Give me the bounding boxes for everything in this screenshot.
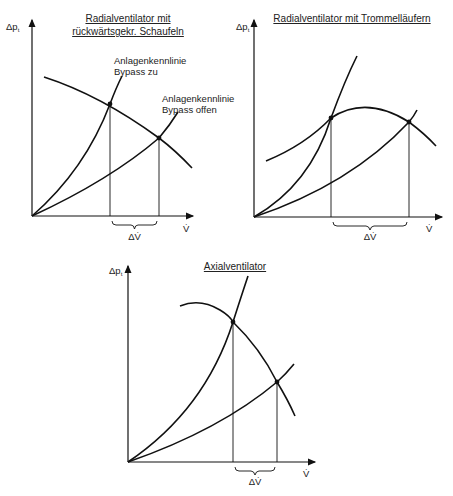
chart-axial: Δpt V̇ Axialventilator ΔV̇ bbox=[109, 261, 315, 487]
chart-title: Axialventilator bbox=[204, 261, 267, 272]
operating-point-closed bbox=[329, 116, 334, 121]
operating-point-open bbox=[157, 136, 162, 141]
delta-brace bbox=[235, 467, 275, 475]
operating-point-closed bbox=[108, 102, 113, 107]
x-axis-label: V̇ bbox=[303, 468, 310, 479]
operating-point-open bbox=[407, 120, 412, 125]
operating-point-open bbox=[275, 380, 280, 385]
delta-v-label: ΔV̇ bbox=[249, 476, 262, 487]
system-curve-bypass-closed bbox=[32, 76, 122, 216]
delta-v-label: ΔV̇ bbox=[128, 231, 141, 242]
delta-brace bbox=[333, 222, 407, 230]
delta-v-label: ΔV̇ bbox=[364, 231, 377, 242]
annotation-bypass-open-line2: Bypass offen bbox=[162, 104, 217, 115]
delta-brace bbox=[112, 221, 157, 229]
y-axis-label: Δpt bbox=[236, 21, 250, 33]
chart-title-line2: rückwärtsgekr. Schaufeln bbox=[72, 26, 184, 37]
chart-title: Radialventilator mit Trommelläufern bbox=[273, 13, 430, 24]
annotation-bypass-open-line1: Anlagenkennlinie bbox=[162, 93, 234, 104]
y-axis-label: Δpt bbox=[109, 265, 123, 277]
fan-curve bbox=[266, 107, 436, 161]
annotation-bypass-closed-line2: Bypass zu bbox=[114, 66, 158, 77]
annotation-bypass-closed-line1: Anlagenkennlinie bbox=[114, 55, 186, 66]
y-axis-label: Δpt bbox=[6, 21, 20, 33]
system-curve-bypass-closed bbox=[254, 56, 357, 217]
chart-title-line1: Radialventilator mit bbox=[85, 13, 170, 24]
chart-radial-backward: Δpt V̇ Radialventilator mit rückwärtsgek… bbox=[6, 13, 234, 242]
system-curve-bypass-open bbox=[32, 112, 178, 216]
fan-curve bbox=[44, 77, 192, 168]
system-curve-bypass-open bbox=[128, 364, 294, 462]
operating-point-closed bbox=[231, 320, 236, 325]
x-axis-label: V̇ bbox=[183, 223, 190, 234]
x-axis-label: V̇ bbox=[426, 223, 433, 234]
fan-characteristics-diagram: Δpt V̇ Radialventilator mit rückwärtsgek… bbox=[0, 0, 453, 496]
fan-curve bbox=[180, 303, 295, 416]
chart-radial-drum: Δpt V̇ Radialventilator mit Trommelläufe… bbox=[236, 13, 442, 242]
